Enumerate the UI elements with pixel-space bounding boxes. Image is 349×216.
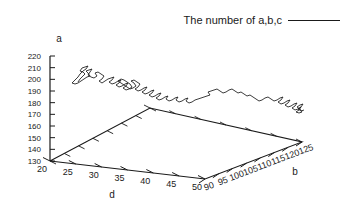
z-tick-label: 190 <box>28 87 42 96</box>
z-tick-label: 180 <box>28 99 42 108</box>
base-plane-tick <box>107 131 113 134</box>
d-tick-label: 45 <box>166 179 176 189</box>
z-axis-ticks <box>50 56 55 161</box>
d-tick <box>43 158 50 162</box>
z-tick-label: 200 <box>28 75 42 84</box>
z-tick-label: 160 <box>28 122 42 131</box>
z-axis-label: a <box>56 33 62 44</box>
x-axis: 20253035404550 d <box>37 158 205 201</box>
x-axis-tick-labels: 20253035404550 <box>37 164 202 192</box>
z-axis: a 130140150160170180190200210220 <box>28 33 63 166</box>
data-series-line <box>72 66 304 113</box>
base-plane-tick <box>136 116 142 119</box>
z-axis-tick-labels: 130140150160170180190200210220 <box>28 52 42 166</box>
base-plane-tick <box>93 138 99 141</box>
z-tick-label: 170 <box>28 110 42 119</box>
base-plane-tick <box>144 105 150 108</box>
b-tick-label: 90 <box>203 180 216 193</box>
z-tick-label: 220 <box>28 52 42 61</box>
base-plane-tick <box>121 123 127 126</box>
z-tick-label: 150 <box>28 134 42 143</box>
b-tick-label: 125 <box>297 142 315 157</box>
y-axis-ticks <box>199 142 302 183</box>
base-plane-tick <box>64 153 70 156</box>
d-tick-label: 40 <box>140 176 150 186</box>
y-axis-tick-labels: 9095100105110115120125 <box>203 142 315 193</box>
d-tick-label: 50 <box>192 182 202 192</box>
z-tick-label: 140 <box>28 145 42 154</box>
z-tick-label: 210 <box>28 64 42 73</box>
y-axis: 9095100105110115120125 b <box>199 142 315 193</box>
data-series-group <box>72 66 304 113</box>
b-tick-label: 95 <box>216 174 229 187</box>
d-tick-label: 20 <box>37 164 47 174</box>
d-tick-label: 35 <box>114 173 124 183</box>
x-axis-label: d <box>109 189 115 200</box>
legend: The number of a,b,c <box>184 14 340 26</box>
d-tick-label: 30 <box>89 170 99 180</box>
legend-label: The number of a,b,c <box>184 14 283 26</box>
base-plane-tick <box>79 146 85 149</box>
chart-3d-surface: The number of a,b,c a 130140150160170180… <box>0 0 349 216</box>
y-axis-label: b <box>292 166 298 177</box>
plot-root: The number of a,b,c a 130140150160170180… <box>0 0 349 216</box>
d-tick-label: 25 <box>63 167 73 177</box>
